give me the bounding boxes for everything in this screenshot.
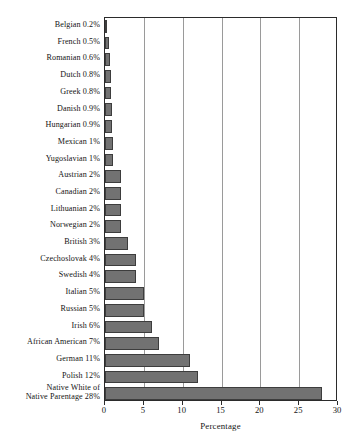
bar-chart: Belgian 0.2%French 0.5%Romanian 0.6%Dutc… (0, 0, 350, 443)
bar-row (105, 187, 336, 200)
bar-row (105, 387, 336, 400)
x-axis-title: Percentage (104, 421, 337, 431)
bar-row (105, 254, 336, 267)
category-label: French 0.5% (0, 38, 100, 47)
bar (105, 137, 113, 150)
bar-row (105, 321, 336, 334)
category-label: Lithuanian 2% (0, 205, 100, 214)
x-tick-label: 25 (294, 405, 303, 415)
bar (105, 87, 111, 100)
plot-area (104, 17, 337, 401)
bar (105, 254, 136, 267)
x-tick-label: 30 (333, 405, 342, 415)
bar (105, 237, 128, 250)
bar-row (105, 270, 336, 283)
bar-row (105, 20, 336, 33)
bar-row (105, 204, 336, 217)
category-label: Polish 12% (0, 372, 100, 381)
category-label: Norwegian 2% (0, 221, 100, 230)
category-label: German 11% (0, 355, 100, 364)
bar (105, 187, 121, 200)
category-label: African American 7% (0, 338, 100, 347)
category-label: British 3% (0, 238, 100, 247)
bars-layer (105, 18, 336, 400)
bar (105, 354, 190, 367)
bar-row (105, 337, 336, 350)
category-label: Native White of Native Parentage 28% (0, 384, 100, 401)
bar (105, 20, 107, 33)
category-label: Belgian 0.2% (0, 21, 100, 30)
category-label: Yugoslavian 1% (0, 155, 100, 164)
bar (105, 220, 121, 233)
bar (105, 37, 109, 50)
category-label: Swedish 4% (0, 271, 100, 280)
bar (105, 371, 198, 384)
bar (105, 321, 152, 334)
x-tick-label: 15 (216, 405, 225, 415)
bar (105, 287, 144, 300)
bar-row (105, 137, 336, 150)
bar (105, 103, 112, 116)
category-label: Austrian 2% (0, 171, 100, 180)
category-label: Irish 6% (0, 322, 100, 331)
x-tick-label: 10 (177, 405, 186, 415)
bar (105, 204, 121, 217)
bar (105, 154, 113, 167)
category-label: Russian 5% (0, 305, 100, 314)
bar (105, 304, 144, 317)
bar-row (105, 371, 336, 384)
x-axis: 051015202530 (104, 401, 337, 421)
category-axis-labels: Belgian 0.2%French 0.5%Romanian 0.6%Dutc… (0, 17, 100, 401)
bar-row (105, 237, 336, 250)
category-label: Greek 0.8% (0, 88, 100, 97)
bar-row (105, 287, 336, 300)
x-tick-label: 20 (255, 405, 264, 415)
category-label: Dutch 0.8% (0, 71, 100, 80)
bar-row (105, 53, 336, 66)
bar-row (105, 70, 336, 83)
x-tick-label: 0 (102, 405, 106, 415)
bar-row (105, 304, 336, 317)
bar-row (105, 354, 336, 367)
bar-row (105, 37, 336, 50)
bar (105, 270, 136, 283)
bar (105, 387, 322, 400)
category-label: Italian 5% (0, 288, 100, 297)
category-label: Hungarian 0.9% (0, 121, 100, 130)
category-label: Danish 0.9% (0, 105, 100, 114)
bar-row (105, 170, 336, 183)
bar-row (105, 87, 336, 100)
category-label: Mexican 1% (0, 138, 100, 147)
bar (105, 120, 112, 133)
bar-row (105, 154, 336, 167)
bar-row (105, 220, 336, 233)
x-tick-label: 5 (141, 405, 145, 415)
bar (105, 170, 121, 183)
bar (105, 337, 159, 350)
category-label: Romanian 0.6% (0, 54, 100, 63)
category-label: Czechoslovak 4% (0, 255, 100, 264)
bar (105, 70, 111, 83)
bar (105, 53, 110, 66)
bar-row (105, 120, 336, 133)
bar-row (105, 103, 336, 116)
category-label: Canadian 2% (0, 188, 100, 197)
